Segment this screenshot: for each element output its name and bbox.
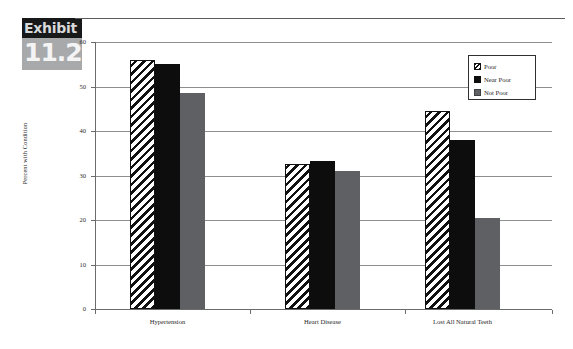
legend-label-poor: Poor: [484, 63, 496, 71]
y-tick-label: 50: [60, 83, 86, 90]
x-tick: [250, 310, 251, 314]
chart-legend: Poor Near Poor Not Poor: [468, 55, 536, 100]
x-axis-label: Hypertension: [150, 318, 186, 325]
y-tick-label: 40: [60, 127, 86, 134]
y-tick-label: 10: [60, 261, 86, 268]
bar-heart-disease-poor: [285, 164, 310, 309]
hatch-swatch-icon: [474, 63, 481, 70]
bar-hypertension-near-poor: [155, 64, 180, 309]
gray-swatch-icon: [474, 89, 481, 96]
bar-hypertension-poor: [130, 60, 155, 309]
legend-label-near-poor: Near Poor: [484, 76, 511, 84]
x-axis-line: [95, 309, 552, 310]
bar-lost-all-natural-teeth-not-poor: [475, 218, 500, 309]
y-tick: [91, 87, 96, 88]
y-axis-title: Percent with Condition: [21, 94, 28, 214]
y-tick: [91, 176, 96, 177]
y-tick-label: 20: [60, 216, 86, 223]
x-axis-label: Lost All Natural Teeth: [433, 318, 492, 325]
exhibit-label: Exhibit: [22, 18, 82, 38]
legend-label-not-poor: Not Poor: [484, 89, 508, 97]
header-rule: [75, 18, 565, 19]
exhibit-page: Exhibit 11.2 Percent with Condition 0102…: [0, 0, 573, 349]
bar-hypertension-not-poor: [180, 93, 205, 309]
bar-lost-all-natural-teeth-poor: [425, 111, 450, 309]
bar-heart-disease-not-poor: [335, 171, 360, 309]
x-tick: [405, 310, 406, 314]
y-tick: [91, 131, 96, 132]
x-tick: [95, 310, 96, 314]
y-tick-label: 60: [60, 38, 86, 45]
gridline: [95, 42, 552, 43]
legend-item-not-poor: Not Poor: [474, 86, 535, 99]
bar-heart-disease-near-poor: [310, 161, 335, 309]
y-tick-label: 30: [60, 172, 86, 179]
black-swatch-icon: [474, 76, 481, 83]
y-tick: [91, 265, 96, 266]
bar-lost-all-natural-teeth-near-poor: [450, 140, 475, 309]
y-tick: [91, 42, 96, 43]
x-axis-label: Heart Disease: [304, 318, 341, 325]
legend-item-poor: Poor: [474, 60, 535, 73]
x-tick: [552, 310, 553, 314]
y-tick-label: 0: [60, 305, 86, 312]
y-tick: [91, 220, 96, 221]
legend-item-near-poor: Near Poor: [474, 73, 535, 86]
